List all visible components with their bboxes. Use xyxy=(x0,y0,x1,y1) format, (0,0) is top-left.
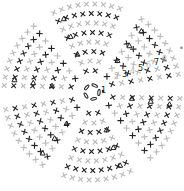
row-number-label: 3 xyxy=(122,71,127,79)
row-number-label: 7 xyxy=(154,59,159,67)
row-number-label: 8 xyxy=(162,56,167,64)
row-number-label: 6 xyxy=(146,62,151,70)
row-number-label: 1 xyxy=(101,87,106,95)
row-number-label: 5 xyxy=(138,65,143,73)
row-number-label: 4 xyxy=(130,68,135,76)
row-number-label: 2 xyxy=(114,73,119,81)
end-marker: • xyxy=(179,45,184,53)
center-chain-ring xyxy=(83,83,100,100)
crochet-chart xyxy=(0,0,184,191)
